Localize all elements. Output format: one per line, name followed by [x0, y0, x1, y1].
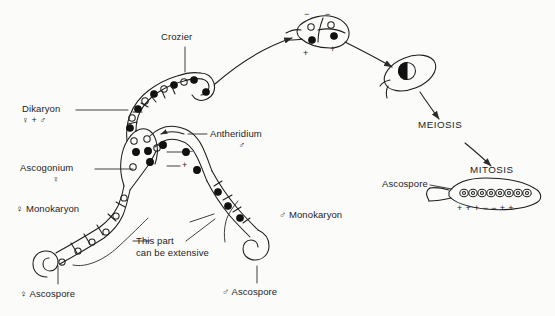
- male-monokaryon-hypha: [207, 171, 269, 260]
- label-ascogonium: Ascogonium: [20, 162, 73, 174]
- diagram-drawing-layer: [0, 0, 555, 316]
- ascospore-row: [460, 189, 531, 197]
- label-crozier: Crozier: [161, 31, 192, 43]
- ascus-mother-cell-icon: [286, 16, 349, 48]
- label-male-ascospore: ♂ Ascospore: [222, 286, 277, 298]
- arrow-to-mitosis: [465, 143, 491, 166]
- fungal-life-cycle-diagram: Crozier Dikaryon ♀ + ♂ Antheridium ♂ Asc…: [0, 0, 555, 316]
- label-antheridium: Antheridium: [210, 128, 262, 140]
- dikaryon-hypha: [127, 73, 202, 141]
- sign-ascogonium-minus: −: [188, 146, 193, 158]
- sign-crozier-minus-left: −: [304, 9, 309, 21]
- label-meiosis: MEIOSIS: [418, 119, 462, 131]
- label-ascospore: Ascospore: [382, 178, 428, 190]
- crozier-hook-icon: [191, 73, 215, 100]
- label-extensive-line2: can be extensive: [136, 247, 209, 259]
- label-female-monokaryon: ♀ Monokaryon: [16, 203, 79, 215]
- label-ascogonium-symbol: ♀: [20, 174, 92, 186]
- label-female-ascospore: ♀ Ascospore: [20, 288, 75, 300]
- label-male-monokaryon: ♂ Monokaryon: [279, 209, 342, 221]
- antheridium-icon: [150, 126, 212, 181]
- zygote-nucleus-icon: [379, 48, 441, 98]
- label-dikaryon-symbols: ♀ + ♂: [22, 115, 46, 127]
- sign-ascogonium-plus: +: [182, 160, 187, 172]
- label-mitosis: MITOSIS: [470, 164, 514, 176]
- sign-crozier-plus-left: +: [303, 48, 308, 60]
- label-extensive-line1: This part: [136, 235, 174, 247]
- arrow-crozier-to-cell: [215, 38, 292, 84]
- sign-crozier-minus-right: −: [325, 9, 330, 21]
- label-dikaryon: Dikaryon: [22, 103, 60, 115]
- label-antheridium-symbol: ♂: [210, 140, 274, 152]
- arrow-to-zygote: [345, 42, 392, 67]
- sign-crozier-plus-right: +: [330, 44, 335, 56]
- ascus-sign-row: +++−−++: [457, 203, 517, 215]
- arrow-to-meiosis: [420, 92, 439, 119]
- female-monokaryon-hypha: [33, 186, 130, 277]
- leader-lines: [58, 47, 452, 284]
